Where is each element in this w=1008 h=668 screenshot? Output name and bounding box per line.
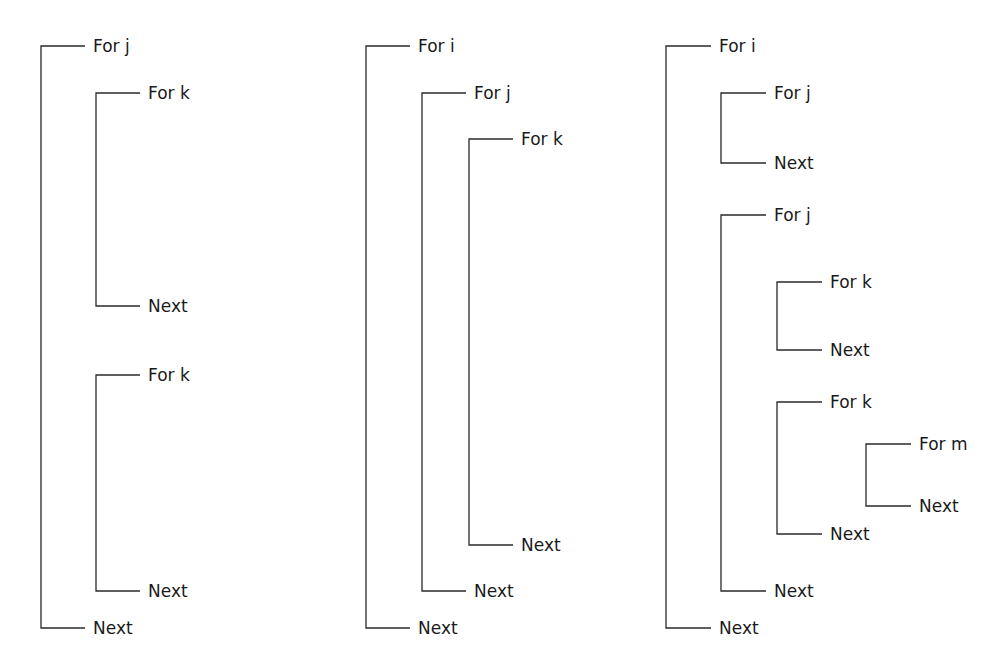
for-label: For j [774, 205, 811, 225]
next-label: Next [418, 618, 458, 638]
loop-bracket: For iNext [366, 36, 458, 638]
for-label: For k [830, 392, 872, 412]
loop-bracket: For kNext [777, 272, 872, 360]
bracket-line [721, 215, 766, 591]
next-label: Next [774, 581, 814, 601]
bracket-line [666, 46, 711, 628]
loop-bracket: For jNext [721, 205, 814, 601]
loop-bracket: For kNext [96, 83, 190, 316]
for-label: For k [830, 272, 872, 292]
for-label: For k [148, 365, 190, 385]
loop-bracket: For jNext [721, 83, 814, 173]
next-label: Next [719, 618, 759, 638]
for-label: For i [418, 36, 455, 56]
for-label: For k [521, 129, 563, 149]
loop-bracket: For jNext [41, 36, 133, 638]
next-label: Next [474, 581, 514, 601]
loop-bracket: For kNext [469, 129, 563, 555]
next-label: Next [919, 496, 959, 516]
next-label: Next [830, 524, 870, 544]
bracket-line [422, 93, 466, 591]
bracket-line [41, 46, 85, 628]
loop-bracket: For kNext [777, 392, 872, 544]
loop-bracket: For mNext [866, 434, 968, 516]
bracket-line [469, 139, 513, 545]
loop-bracket: For kNext [96, 365, 190, 601]
bracket-line [866, 444, 911, 506]
bracket-line [721, 93, 766, 163]
for-label: For i [719, 36, 756, 56]
nested-loops-diagram: For jNextFor kNextFor kNextFor iNextFor … [0, 0, 1008, 668]
for-label: For k [148, 83, 190, 103]
next-label: Next [93, 618, 133, 638]
bracket-line [96, 93, 140, 306]
next-label: Next [830, 340, 870, 360]
loop-bracket: For jNext [422, 83, 514, 601]
next-label: Next [774, 153, 814, 173]
for-label: For j [93, 36, 130, 56]
diagram-2: For iNextFor jNextFor kNext [366, 36, 563, 638]
next-label: Next [148, 296, 188, 316]
next-label: Next [521, 535, 561, 555]
for-label: For m [919, 434, 968, 454]
bracket-line [777, 282, 822, 350]
diagram-1: For jNextFor kNextFor kNext [41, 36, 190, 638]
for-label: For j [774, 83, 811, 103]
for-label: For j [474, 83, 511, 103]
bracket-line [777, 402, 822, 534]
loop-bracket: For iNext [666, 36, 759, 638]
next-label: Next [148, 581, 188, 601]
bracket-line [96, 375, 140, 591]
bracket-line [366, 46, 410, 628]
diagram-3: For iNextFor jNextFor jNextFor kNextFor … [666, 36, 968, 638]
